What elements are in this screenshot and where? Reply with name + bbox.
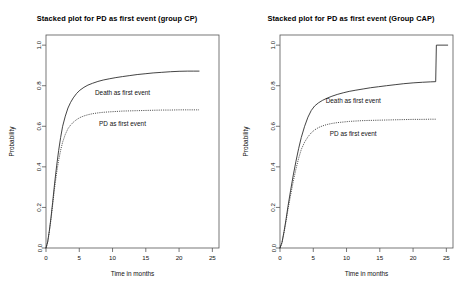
- x-tick-label: 0: [44, 254, 48, 261]
- y-tick-label: 0.8: [36, 81, 43, 90]
- curve-annotation: Death as first event: [95, 89, 150, 96]
- x-tick-label: 5: [312, 254, 316, 261]
- series-death: [280, 45, 448, 248]
- figure-container: Stacked plot for PD as first event (grou…: [0, 0, 468, 296]
- x-tick-label: 20: [410, 254, 417, 261]
- panel-right-plot: 05101520250.00.20.40.60.81.0Time in mont…: [234, 0, 468, 296]
- panel-right: Stacked plot for PD as first event (Grou…: [234, 0, 468, 296]
- x-tick-label: 20: [176, 254, 183, 261]
- series-pd: [46, 110, 199, 248]
- y-tick-label: 0.6: [36, 121, 43, 130]
- x-tick-label: 15: [376, 254, 383, 261]
- x-tick-label: 25: [443, 254, 450, 261]
- y-tick-label: 0.2: [270, 203, 277, 212]
- plot-frame: [46, 35, 219, 248]
- x-tick-label: 10: [343, 254, 350, 261]
- curve-annotation: PD as first event: [99, 120, 146, 127]
- y-axis-label: Probability: [8, 126, 16, 157]
- x-tick-label: 25: [209, 254, 216, 261]
- curve-annotation: PD as first event: [330, 130, 377, 137]
- y-tick-label: 0.0: [36, 243, 43, 252]
- y-axis-label: Probability: [242, 126, 250, 157]
- x-tick-label: 0: [278, 254, 282, 261]
- y-tick-label: 0.4: [36, 162, 43, 171]
- x-tick-label: 15: [142, 254, 149, 261]
- x-axis-label: Time in months: [345, 270, 388, 277]
- panel-left-plot: 05101520250.00.20.40.60.81.0Time in mont…: [0, 0, 234, 296]
- panel-left: Stacked plot for PD as first event (grou…: [0, 0, 234, 296]
- y-tick-label: 0.6: [270, 121, 277, 130]
- series-death: [46, 71, 199, 248]
- y-tick-label: 1.0: [36, 40, 43, 49]
- y-tick-label: 0.8: [270, 81, 277, 90]
- y-tick-label: 1.0: [270, 40, 277, 49]
- x-axis-label: Time in months: [111, 270, 154, 277]
- y-tick-label: 0.0: [270, 243, 277, 252]
- curve-annotation: Death as first event: [326, 97, 381, 104]
- plot-frame: [280, 35, 453, 248]
- x-tick-label: 10: [109, 254, 116, 261]
- series-pd: [280, 119, 436, 248]
- y-tick-label: 0.2: [36, 203, 43, 212]
- y-tick-label: 0.4: [270, 162, 277, 171]
- x-tick-label: 5: [78, 254, 82, 261]
